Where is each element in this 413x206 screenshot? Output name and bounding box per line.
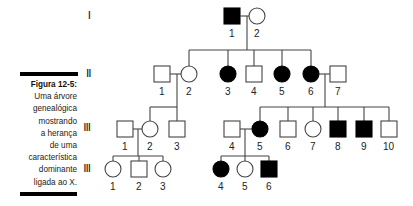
individual-II-5-affected-female	[274, 66, 290, 82]
individual-I-1-affected-male	[224, 8, 240, 24]
individual-II-4-male	[246, 66, 262, 82]
svg-text:4: 4	[251, 86, 257, 97]
svg-text:5: 5	[257, 141, 263, 152]
svg-text:6: 6	[285, 141, 291, 152]
individual-III-2-female	[142, 121, 158, 137]
svg-text:5: 5	[279, 86, 285, 97]
individual-III-10-male	[381, 121, 397, 137]
svg-text:1: 1	[159, 86, 165, 97]
svg-text:1: 1	[110, 181, 116, 192]
individual-III-7-female	[305, 121, 321, 137]
individual-IV-3-female	[155, 161, 171, 177]
svg-text:3: 3	[160, 181, 166, 192]
svg-text:3: 3	[225, 86, 231, 97]
individual-II-7-male	[330, 66, 346, 82]
svg-text:6: 6	[266, 181, 272, 192]
individual-III-4-male	[224, 121, 240, 137]
individual-II-6-affected-female	[303, 66, 319, 82]
svg-text:2: 2	[136, 181, 142, 192]
svg-text:4: 4	[229, 141, 235, 152]
label-I-2: 2	[254, 28, 260, 39]
pedigree-generation-1: 1 2	[224, 8, 265, 40]
svg-text:2: 2	[186, 86, 192, 97]
individual-II-3-affected-female	[220, 66, 236, 82]
individual-IV-6-affected-male	[261, 161, 277, 177]
svg-text:10: 10	[383, 141, 395, 152]
pedigree-generation-2: 1 2 3 4 5 6 7	[154, 40, 346, 97]
svg-text:1: 1	[122, 141, 128, 152]
label-I-1: 1	[229, 28, 235, 39]
svg-text:8: 8	[335, 141, 341, 152]
svg-text:2: 2	[147, 141, 153, 152]
individual-III-5-affected-female	[252, 121, 268, 137]
individual-IV-1-female	[105, 161, 121, 177]
pedigree-generation-4-right: 4 5 6	[213, 129, 277, 192]
individual-IV-5-female	[237, 161, 253, 177]
individual-III-8-affected-male	[330, 121, 346, 137]
pedigree-chart: 1 2 1 2 3 4 5 6 7 1	[0, 0, 413, 206]
svg-text:7: 7	[335, 86, 341, 97]
svg-text:4: 4	[218, 181, 224, 192]
individual-III-1-male	[117, 121, 133, 137]
individual-II-1-male	[154, 66, 170, 82]
individual-III-6-male	[280, 121, 296, 137]
svg-text:7: 7	[310, 141, 316, 152]
svg-text:9: 9	[361, 141, 367, 152]
individual-III-9-affected-male	[356, 121, 372, 137]
individual-IV-4-affected-female	[213, 161, 229, 177]
pedigree-generation-4-left: 1 2 3	[105, 129, 171, 192]
svg-text:6: 6	[308, 86, 314, 97]
pedigree-generation-3-left: 1 2 3	[117, 74, 185, 152]
individual-IV-2-male	[131, 161, 147, 177]
svg-text:5: 5	[242, 181, 248, 192]
individual-II-2-female	[181, 66, 197, 82]
individual-III-3-male	[169, 121, 185, 137]
svg-text:3: 3	[174, 141, 180, 152]
individual-I-2-female	[249, 8, 265, 24]
